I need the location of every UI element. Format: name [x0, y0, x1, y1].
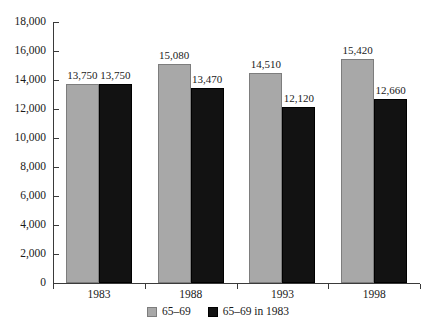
x-axis-tick [237, 284, 238, 289]
x-axis-tick [328, 284, 329, 289]
legend-swatch-icon [147, 307, 157, 317]
legend-item: 65–69 [147, 306, 191, 318]
legend-item: 65–69 in 1983 [208, 306, 289, 318]
bar [282, 107, 315, 283]
y-axis-tick [53, 138, 59, 139]
y-axis-tick-label: 8,000 [0, 161, 46, 173]
plot-area [53, 22, 420, 283]
x-axis-tick [53, 284, 54, 289]
legend-label: 65–69 in 1983 [223, 306, 289, 318]
y-axis-tick-label: 4,000 [0, 219, 46, 231]
bar-value-label: 15,080 [159, 50, 189, 61]
y-axis-tick-label: 16,000 [0, 45, 46, 57]
bar-value-label: 13,750 [67, 70, 97, 81]
y-axis-tick [53, 167, 59, 168]
y-axis-tick [53, 225, 59, 226]
y-axis-tick [53, 109, 59, 110]
bar-value-label: 12,120 [284, 93, 314, 104]
bar [99, 84, 132, 283]
y-axis-tick-label: 2,000 [0, 248, 46, 260]
y-axis-tick-label: 18,000 [0, 16, 46, 28]
bar [66, 84, 99, 283]
y-axis-tick [53, 254, 59, 255]
bar-value-label: 12,660 [376, 85, 406, 96]
y-axis-tick [53, 80, 59, 81]
x-axis-tick [145, 284, 146, 289]
y-axis-tick [53, 22, 59, 23]
bar-value-label: 15,420 [343, 45, 373, 56]
y-axis-tick-label: 14,000 [0, 74, 46, 86]
bar-value-label: 14,510 [251, 59, 281, 70]
bar [341, 59, 374, 283]
y-axis-tick-label: 12,000 [0, 103, 46, 115]
chart-figure: 02,0004,0006,0008,00010,00012,00014,0001… [0, 0, 436, 328]
y-axis-tick-label: 6,000 [0, 190, 46, 202]
x-axis-tick [420, 284, 421, 289]
bar-value-label: 13,750 [100, 70, 130, 81]
x-axis-tick-label: 1988 [179, 289, 202, 301]
bar [191, 88, 224, 283]
bar [374, 99, 407, 283]
chart-legend: 65–6965–69 in 1983 [0, 306, 436, 318]
x-axis-tick-label: 1983 [87, 289, 110, 301]
legend-swatch-icon [208, 307, 218, 317]
y-axis-tick-label: 0 [0, 277, 46, 289]
bar [249, 73, 282, 283]
bar-value-label: 13,470 [192, 74, 222, 85]
bar [158, 64, 191, 283]
x-axis-tick-label: 1998 [363, 289, 386, 301]
y-axis-tick [53, 51, 59, 52]
legend-label: 65–69 [162, 306, 191, 318]
y-axis-tick-label: 10,000 [0, 132, 46, 144]
x-axis-tick-label: 1993 [271, 289, 294, 301]
y-axis-tick [53, 196, 59, 197]
